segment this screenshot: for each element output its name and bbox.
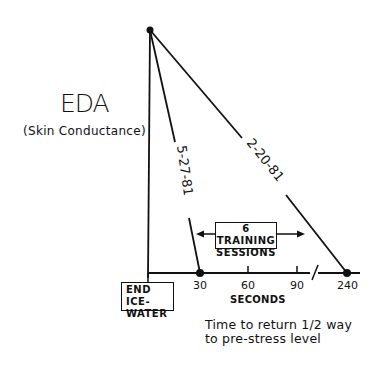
- series-label-2-20-81: 2-20-81: [244, 135, 288, 184]
- series-2-20-81-endpoint: [343, 269, 351, 277]
- diagram-canvas: 5-27-81 2-20-81: [0, 0, 376, 369]
- series-5-27-81-line-upper: [150, 30, 175, 142]
- y-axis-line: [148, 29, 150, 278]
- axis-break-icon: [312, 265, 318, 280]
- arrow-left-icon: [196, 231, 204, 238]
- series-2-20-81-line-upper: [150, 30, 242, 138]
- training-box-line2: SESSIONS: [216, 247, 276, 259]
- series-5-27-81-endpoint: [196, 269, 204, 277]
- y-axis-subtitle: (Skin Conductance): [23, 124, 146, 138]
- tick-label-240: 240: [337, 279, 358, 292]
- y-axis-title: EDA: [60, 89, 109, 118]
- end-box-line1: END ICE-: [126, 284, 173, 308]
- figure-caption: Time to return 1/2 way to pre-stress lev…: [205, 318, 352, 346]
- training-sessions-box: 6 TRAINING SESSIONS: [215, 222, 277, 249]
- tick-label-30: 30: [193, 279, 207, 292]
- series-5-27-81-line-lower: [189, 218, 200, 273]
- x-axis-label: SECONDS: [230, 294, 286, 305]
- tick-label-90: 90: [290, 279, 304, 292]
- caption-line2: to pre-stress level: [205, 332, 352, 346]
- end-box-line2: WATER: [126, 308, 173, 320]
- end-ice-water-box: END ICE- WATER: [121, 282, 174, 311]
- arrow-right-icon: [297, 231, 305, 238]
- tick-label-60: 60: [241, 279, 255, 292]
- training-box-line1: 6 TRAINING: [216, 223, 276, 247]
- caption-line1: Time to return 1/2 way: [205, 318, 352, 332]
- series-label-5-27-81: 5-27-81: [174, 144, 196, 196]
